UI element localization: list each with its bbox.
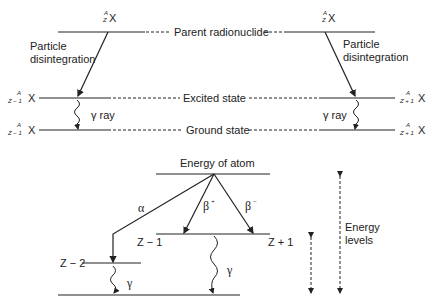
- left-particle-label: Particle: [30, 40, 67, 52]
- alpha-arrow: [113, 174, 214, 262]
- atomic-number: Z: [102, 17, 107, 23]
- mass-number: A: [322, 10, 327, 16]
- element-symbol: X: [28, 124, 36, 136]
- atomic-number: Z − 1: [7, 130, 22, 136]
- beta-minus-superscript: −: [253, 198, 257, 206]
- right-gamma-wave: [354, 100, 359, 129]
- beta-plus-superscript: +: [211, 198, 215, 206]
- left-disintegration-label: disintegration: [30, 53, 95, 65]
- left-gamma-wave: [75, 100, 80, 129]
- gamma-wave-right: [211, 236, 218, 293]
- mass-number: A: [16, 122, 21, 128]
- excited-level: Excited state: [39, 92, 395, 104]
- left-gamma-label: γ ray: [91, 109, 115, 121]
- energy-levels-label-line2: levels: [345, 234, 374, 246]
- beta-plus-label: β: [203, 199, 209, 213]
- right-excited-nuclide: A Z + 1 X: [399, 90, 426, 104]
- mass-number: A: [103, 10, 108, 16]
- left-excited-nuclide: A Z − 1 X: [7, 90, 36, 104]
- decay-diagram: Parent radionuclide A Z X A Z X Excited …: [0, 0, 433, 308]
- excited-state-label: Excited state: [183, 92, 246, 104]
- element-symbol: X: [418, 124, 426, 136]
- gamma-right-label: γ: [226, 263, 233, 277]
- right-gamma-label: γ ray: [323, 109, 347, 121]
- gamma-left-label: γ: [126, 276, 133, 290]
- parent-radionuclide-label: Parent radionuclide: [174, 26, 269, 38]
- element-symbol: X: [418, 92, 426, 104]
- gamma-wave-left: [111, 266, 116, 293]
- ground-state-label: Ground state: [186, 124, 250, 136]
- left-parent-nuclide: A Z X: [102, 10, 117, 24]
- atomic-number: Z − 1: [7, 98, 22, 104]
- energy-levels-label-line1: Energy: [345, 221, 380, 233]
- alpha-label: α: [138, 201, 145, 215]
- element-symbol: X: [109, 12, 117, 24]
- mass-number: A: [16, 90, 21, 96]
- atomic-number: Z + 1: [399, 130, 414, 136]
- atomic-number: Z: [321, 17, 326, 23]
- right-disintegration-label: disintegration: [343, 51, 408, 63]
- z-minus-2-label: Z − 2: [60, 257, 85, 269]
- element-symbol: X: [28, 92, 36, 104]
- energy-of-atom-label: Energy of atom: [180, 157, 255, 169]
- element-symbol: X: [328, 12, 336, 24]
- atomic-number: Z + 1: [399, 98, 414, 104]
- beta-minus-label: β: [245, 199, 251, 213]
- right-parent-nuclide: A Z X: [321, 10, 336, 24]
- z-plus-1-label: Z + 1: [268, 236, 293, 248]
- right-particle-label: Particle: [343, 38, 380, 50]
- z-minus-1-label: Z − 1: [137, 236, 162, 248]
- mass-number: A: [405, 122, 410, 128]
- left-ground-nuclide: A Z − 1 X: [7, 122, 36, 136]
- ground-level: Ground state: [39, 124, 395, 136]
- right-ground-nuclide: A Z + 1 X: [399, 122, 426, 136]
- mass-number: A: [405, 90, 410, 96]
